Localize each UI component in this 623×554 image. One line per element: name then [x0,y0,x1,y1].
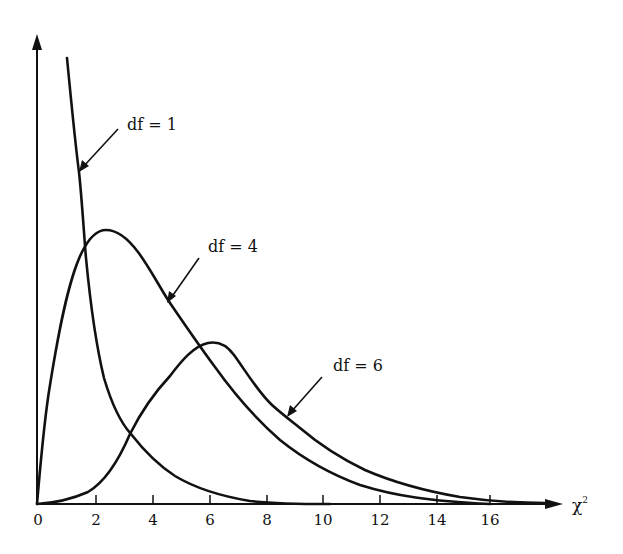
x-axis-label: χ2 [572,496,588,514]
x-axis-label-chi: χ [572,495,582,515]
y-axis-arrow-icon [32,34,42,50]
tick-label-6: 6 [205,513,215,528]
tick-label-2: 2 [91,513,101,528]
annotation-arrow-df-4 [167,258,199,303]
tick-label-8: 8 [262,513,272,528]
annotation-arrow-df-1 [79,129,118,172]
annotation-arrow-df-6 [287,377,322,417]
label-df-4: df = 4 [208,239,258,255]
curve-df-1 [67,58,330,504]
tick-label-14: 14 [427,513,446,528]
x-axis-label-sup: 2 [582,495,588,505]
tick-label-10: 10 [313,513,332,528]
x-axis-arrow-icon [545,499,563,509]
tick-label-4: 4 [148,513,158,528]
tick-label-16: 16 [480,513,499,528]
tick-label-0: 0 [33,513,43,528]
label-df-6: df = 6 [333,358,383,374]
curve-df-4 [37,230,490,504]
chi-square-chart [0,0,623,554]
label-df-1: df = 1 [127,117,177,133]
tick-label-12: 12 [370,513,389,528]
curve-df-6 [37,342,545,504]
